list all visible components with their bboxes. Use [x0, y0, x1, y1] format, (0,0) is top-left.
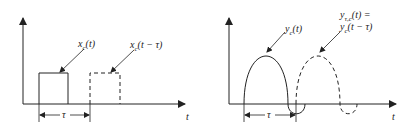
left-axis-t-label: t	[186, 111, 189, 122]
left-signal-label-arg: (t)	[86, 38, 95, 49]
right-tau-label: τ	[267, 109, 271, 120]
left-signal-label: xc(t)	[78, 38, 95, 54]
left-delayed-label-arg: (t − τ)	[138, 39, 163, 50]
right-delayed-label-line2-arg: (t − τ)	[348, 21, 373, 32]
left-plot	[23, 18, 185, 122]
left-dashed-pulse	[90, 73, 120, 104]
right-pointer-solid	[267, 32, 285, 52]
right-delayed-label-line1-arg: (t) =	[352, 9, 371, 20]
left-tau-label: τ	[62, 109, 66, 120]
right-axis-t-label: t	[392, 111, 395, 122]
left-delayed-label: xc(t − τ)	[130, 39, 162, 55]
right-delayed-label-line2: yc(t − τ)	[340, 21, 372, 37]
left-solid-pulse	[39, 73, 68, 104]
right-signal-label-arg: (t)	[293, 23, 302, 34]
right-pointer-dashed	[320, 32, 340, 52]
right-signal-label: yc(t)	[285, 23, 302, 39]
